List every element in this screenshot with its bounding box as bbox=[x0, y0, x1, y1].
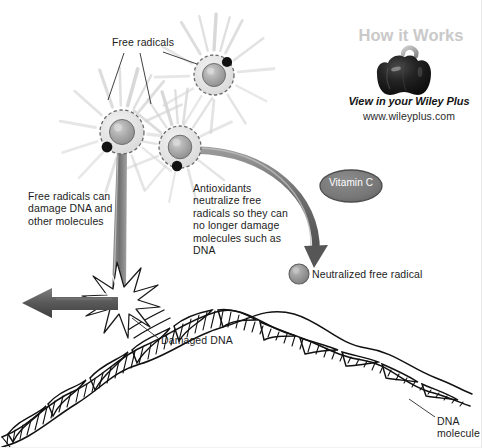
label-antioxidants: Antioxidants neutralize free radicals so… bbox=[193, 182, 288, 256]
dna-molecule bbox=[2, 310, 472, 447]
unpaired-electron-dot bbox=[172, 161, 182, 171]
brand-how-it-works: How it Works bbox=[346, 26, 476, 45]
label-damaged-dna: Damaged DNA bbox=[161, 334, 233, 346]
label-free-radicals-damage: Free radicals can damage DNA and other m… bbox=[28, 190, 112, 227]
brand-view-in-wiley-plus: View in your Wiley Plus bbox=[336, 95, 482, 107]
free-radical-left bbox=[100, 110, 144, 154]
damage-direction-arrow bbox=[22, 288, 118, 318]
bell-pepper-icon bbox=[377, 47, 431, 95]
free-radical-lower-middle bbox=[159, 126, 201, 171]
label-dna-molecule: DNA molecule bbox=[437, 415, 480, 439]
free-radical-upper-right bbox=[194, 55, 234, 95]
unpaired-electron-dot bbox=[102, 142, 113, 153]
figure-canvas: Free radicals Free radicals can damage D… bbox=[0, 0, 482, 448]
neutralized-radical bbox=[289, 264, 309, 284]
brand-url: www.wileyplus.com bbox=[336, 110, 482, 122]
unpaired-electron-dot bbox=[222, 57, 232, 67]
label-vitamin-c: Vitamin C bbox=[320, 177, 382, 188]
label-neutralized-free-radical: Neutralized free radical bbox=[312, 268, 423, 280]
label-free-radicals: Free radicals bbox=[112, 36, 174, 48]
